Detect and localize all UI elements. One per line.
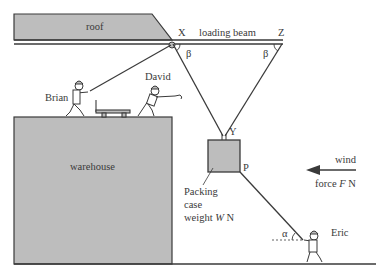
wind-force-unit: N (346, 178, 356, 189)
wind-label-line1: wind (335, 155, 356, 166)
rope-xy (173, 44, 223, 136)
angle-beta-left-label: β (186, 49, 191, 60)
rope-zy (225, 44, 282, 136)
packing-case-weight-var: W (215, 212, 224, 223)
david-figure-icon (138, 86, 182, 116)
rope-brian (90, 45, 171, 91)
warehouse-shape (14, 117, 172, 264)
warehouse-label: warehouse (70, 162, 115, 173)
packing-case-label-line2: case (184, 200, 202, 211)
wind-arrow-head-icon (306, 165, 320, 175)
roof-label: roof (86, 22, 104, 33)
wind-force-prefix: force (315, 178, 339, 189)
trolley-icon (96, 100, 130, 117)
point-z-label: Z (278, 28, 284, 39)
david-label: David (145, 72, 171, 83)
angle-arc-alpha (292, 233, 295, 240)
point-p-label: P (243, 163, 249, 174)
packing-case-weight-prefix: weight (184, 212, 215, 223)
packing-case-label-line1: Packing (184, 187, 218, 198)
point-y-label: Y (229, 127, 237, 138)
angle-alpha-label: α (282, 229, 288, 240)
rope-eric (240, 172, 303, 240)
brian-label: Brian (45, 93, 68, 104)
packing-case-weight-unit: N (224, 212, 234, 223)
brian-figure-icon (66, 81, 88, 116)
eric-figure-icon (304, 231, 322, 262)
angle-arc-beta-right (274, 44, 278, 51)
point-x-label: X (178, 28, 186, 39)
wind-label-line2: force F N (315, 179, 356, 190)
packing-case-label-line3: weight W N (184, 213, 234, 224)
eric-label: Eric (331, 228, 349, 239)
angle-beta-right-label: β (263, 49, 268, 60)
loading-beam-label: loading beam (199, 28, 256, 39)
packing-case-shape (208, 140, 240, 172)
